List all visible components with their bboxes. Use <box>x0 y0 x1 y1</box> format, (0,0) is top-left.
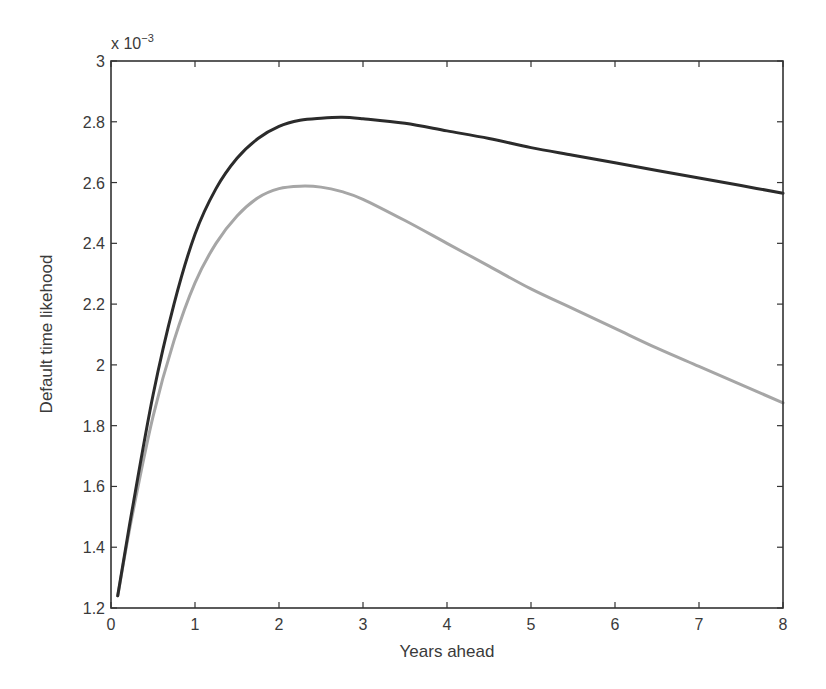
y-tick-label: 1.6 <box>83 478 105 495</box>
x-axis-label: Years ahead <box>400 642 495 661</box>
plot-frame <box>111 61 783 608</box>
series-line-light-curve <box>118 186 783 596</box>
y-tick-label: 2.2 <box>83 296 105 313</box>
x-tick-label: 1 <box>191 616 200 633</box>
x-tick-label: 7 <box>695 616 704 633</box>
x-tick-label: 4 <box>443 616 452 633</box>
y-exponent-base: x 10 <box>111 35 141 52</box>
y-tick-label: 1.4 <box>83 539 105 556</box>
y-tick-label: 2.6 <box>83 175 105 192</box>
y-tick-labels: 1.21.41.61.822.22.42.62.83 <box>83 53 105 617</box>
x-tick-labels: 012345678 <box>107 616 788 633</box>
x-tick-label: 0 <box>107 616 116 633</box>
y-tick-label: 1.2 <box>83 600 105 617</box>
x-tick-label: 8 <box>779 616 788 633</box>
x-tick-label: 3 <box>359 616 368 633</box>
x-tick-label: 2 <box>275 616 284 633</box>
x-ticks <box>111 61 783 608</box>
y-exponent-label: x 10−3 <box>111 32 154 52</box>
y-tick-label: 2.8 <box>83 114 105 131</box>
y-tick-label: 2 <box>96 357 105 374</box>
y-ticks <box>111 61 783 608</box>
y-tick-label: 3 <box>96 53 105 70</box>
series-layer <box>118 117 783 596</box>
y-axis-label: Default time likehood <box>37 255 56 414</box>
x-tick-label: 5 <box>527 616 536 633</box>
series-line-dark-curve <box>118 117 783 596</box>
line-chart: 012345678 1.21.41.61.822.22.42.62.83 x 1… <box>0 0 826 689</box>
y-tick-label: 2.4 <box>83 235 105 252</box>
y-tick-label: 1.8 <box>83 418 105 435</box>
y-exponent-power: −3 <box>141 32 154 44</box>
x-tick-label: 6 <box>611 616 620 633</box>
